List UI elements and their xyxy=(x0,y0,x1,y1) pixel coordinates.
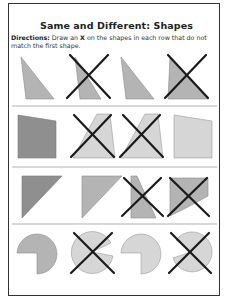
shape-right-triangle[interactable] xyxy=(21,57,54,99)
row-corner-triangles xyxy=(22,176,209,218)
shape-pac-circle-quarter[interactable] xyxy=(17,234,57,274)
row-triangles xyxy=(21,55,208,99)
shape-corner-triangle[interactable] xyxy=(82,176,122,218)
shape-slanted-quad[interactable] xyxy=(174,115,212,158)
row-circles xyxy=(17,232,212,274)
shape-corner-triangle[interactable] xyxy=(22,176,62,218)
shape-right-triangle[interactable] xyxy=(121,57,154,99)
shapes-canvas xyxy=(0,0,233,302)
shape-slanted-quad[interactable] xyxy=(18,115,56,158)
shape-pac-circle-wedge-left[interactable] xyxy=(173,232,212,272)
shape-pac-circle-quarter[interactable] xyxy=(121,234,161,274)
row-quadrilaterals xyxy=(18,114,212,158)
